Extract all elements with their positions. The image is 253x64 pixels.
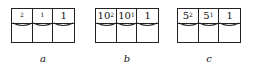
place-label: 1 (53, 10, 74, 22)
place-label: 1 (137, 10, 158, 22)
place-value-grid: 52 51 1 (177, 8, 241, 43)
place-label: 52 (178, 10, 198, 22)
place-value-grid: 102 101 1 (95, 8, 159, 43)
place-label: 101 (117, 10, 137, 22)
place-label: 51 (199, 10, 219, 22)
place-value-group-c: 52 51 1 c (177, 8, 241, 43)
group-caption: a (11, 53, 75, 64)
place-value-group-b: 102 101 1 b (95, 8, 159, 43)
arc-icon (12, 22, 74, 28)
place-label: 102 (96, 10, 116, 22)
place-value-group-a: 2 1 1 a (11, 8, 75, 43)
arc-icon (96, 22, 158, 28)
arc-icon (178, 22, 240, 28)
group-caption: b (95, 53, 159, 64)
group-caption: c (177, 53, 241, 64)
place-label: 1 (33, 10, 53, 22)
place-value-grid: 2 1 1 (11, 8, 75, 43)
place-label: 1 (219, 10, 240, 22)
place-label: 2 (12, 10, 32, 22)
